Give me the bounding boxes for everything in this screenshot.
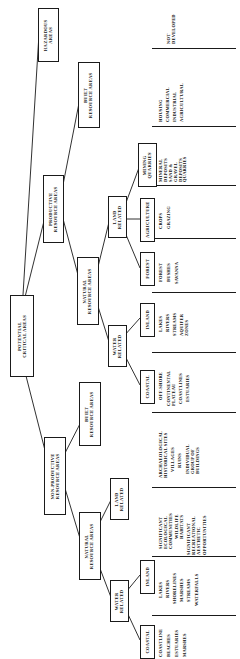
leaf-item: QUARRIES bbox=[182, 157, 187, 182]
node-label-line2: CRITICAL AREAS bbox=[22, 315, 27, 358]
leaf-item: SAVANNA bbox=[174, 262, 179, 284]
leaf-item: AGRICULTURAL bbox=[179, 83, 184, 122]
node-label-line1: FOREST bbox=[145, 259, 150, 279]
leaf-column: INDIVIDUAL GROUP OF BUILDINGS bbox=[185, 444, 201, 474]
leaf-column: MARSHES bbox=[179, 578, 184, 602]
leaf-item: MARSHES bbox=[182, 633, 187, 657]
leaf-item: BUILDINGS bbox=[195, 444, 200, 474]
leaf-column: AGRICULTURAL bbox=[179, 83, 184, 122]
leaf-column: RUINS bbox=[177, 453, 182, 468]
leaf-item: MARSHES bbox=[179, 578, 184, 602]
leaf-column: FOREST bbox=[158, 263, 163, 282]
node-label-line2: RESOURCE AREAS bbox=[54, 186, 59, 232]
leaf-column: STREAMS bbox=[186, 579, 191, 602]
node-label-line2: RELATED bbox=[120, 589, 125, 613]
leaf-column: RIVERS bbox=[165, 580, 170, 598]
node-natural-resource-areas-non-productive[interactable]: NATURAL RESOURCE AREAS bbox=[79, 512, 101, 580]
leaf-item: OPPORTUNITIES bbox=[202, 515, 207, 555]
leaf-item: COASTLINES bbox=[178, 373, 183, 404]
node-label-line1: PRODUCTIVE bbox=[48, 186, 53, 232]
leaf-item: PLATEAU bbox=[171, 371, 176, 406]
leaf-column: BUSHES bbox=[166, 263, 171, 282]
leaf-item: FOREST bbox=[158, 263, 163, 282]
leaf-column: WATERFALLS bbox=[194, 574, 199, 606]
node-potential-critical-areas[interactable]: POTENTIAL CRITICAL AREAS bbox=[10, 295, 34, 377]
leaf-column: WILDLIFE HABITATS bbox=[174, 514, 184, 539]
leaf-item: CROPS bbox=[158, 213, 163, 229]
leaf-column: SAVANNA bbox=[174, 262, 179, 284]
node-agriculture[interactable]: AGRICULTURE bbox=[140, 198, 155, 242]
leaf-column: OFF-SHORE bbox=[158, 372, 163, 400]
leaf-item: OFF-SHORE bbox=[158, 372, 163, 400]
node-label-line1: LAND bbox=[112, 205, 117, 229]
node-label-line1: COASTAL bbox=[145, 375, 150, 399]
node-inland-non-productive[interactable]: INLAND bbox=[140, 560, 155, 594]
leaf-separator bbox=[152, 292, 236, 293]
leaf-item: LAKES bbox=[158, 316, 163, 332]
node-natural-resource-areas-productive[interactable]: NATURAL RESOURCE AREAS bbox=[77, 257, 99, 325]
leaf-item: HOUSING bbox=[158, 99, 163, 122]
node-inland-productive[interactable]: INLAND bbox=[140, 303, 155, 337]
node-non-productive-resource-areas[interactable]: NON-PRODUCTIVE RESOURCE AREAS bbox=[44, 437, 66, 515]
node-built-resource-areas-productive[interactable]: BUILT RESOURCE AREAS bbox=[78, 62, 100, 128]
node-water-related-productive[interactable]: WATER RELATED bbox=[108, 325, 127, 367]
leaf-column: ESTUARIES bbox=[174, 630, 179, 657]
leaf-separator bbox=[152, 126, 236, 127]
leaf-column: ARCHAEOLOGICAL HISTORICAL SITES bbox=[158, 431, 168, 478]
node-land-related-non-productive[interactable]: LAND RELATED bbox=[110, 478, 129, 520]
leaf-separator bbox=[152, 185, 236, 186]
leaf-item: LAKES bbox=[158, 582, 163, 598]
node-label-line2: RELATED bbox=[118, 334, 123, 358]
node-label-line2: QUARRIES bbox=[148, 152, 153, 178]
leaf-separator bbox=[152, 412, 236, 413]
node-label-line1: COASTAL bbox=[145, 630, 150, 654]
leaf-item: DEVELOPED bbox=[171, 14, 176, 44]
leaf-column: SIGNIFICANT ECOLOGICAL COMMUNITIES bbox=[158, 513, 174, 549]
leaf-item: HABITATS bbox=[179, 514, 184, 539]
leaf-item: STREAMS bbox=[172, 313, 177, 336]
node-hazardous-areas[interactable]: HAZARDOUS AREAS bbox=[38, 8, 59, 62]
node-label-line1: LAND bbox=[114, 487, 119, 511]
leaf-column: SHORELINES bbox=[172, 573, 177, 604]
node-coastal-productive[interactable]: COASTAL bbox=[140, 370, 155, 404]
node-label-line1: INLAND bbox=[145, 567, 150, 587]
node-built-resource-areas-non-productive[interactable]: BUILT RESOURCE AREAS bbox=[79, 382, 101, 446]
node-label-line1: POTENTIAL bbox=[17, 315, 22, 358]
node-label-line2: RESOURCE AREAS bbox=[55, 453, 60, 499]
leaf-item: COASTLINE bbox=[158, 629, 163, 657]
leaf-item: RIVERS bbox=[165, 314, 170, 332]
node-label-line1: INLAND bbox=[145, 310, 150, 330]
node-label-line2: AREAS bbox=[49, 19, 54, 51]
leaf-column: VILLAGES bbox=[170, 447, 175, 472]
leaf-item: STREAMS bbox=[186, 579, 191, 602]
node-coastal-non-productive[interactable]: COASTAL bbox=[140, 625, 155, 659]
leaf-item: VILLAGES bbox=[170, 447, 175, 472]
leaf-column: SIGNIFICANT RECREATIONAL AESTHETIC OPPOR… bbox=[186, 515, 207, 555]
leaf-column: MARSHES bbox=[182, 633, 187, 657]
leaf-separator bbox=[152, 352, 236, 353]
node-productive-resource-areas[interactable]: PRODUCTIVE RESOURCE AREAS bbox=[43, 175, 64, 243]
node-mining-quarries[interactable]: MINING QUARRIES bbox=[138, 143, 157, 187]
leaf-item: INDUSTRIAL bbox=[172, 92, 177, 122]
leaf-item: HISTORICAL SITES bbox=[163, 431, 168, 478]
leaf-column: COASTLINE bbox=[158, 629, 163, 657]
leaf-item: BUSHES bbox=[166, 263, 171, 282]
node-forest[interactable]: FOREST bbox=[140, 252, 155, 286]
node-land-related-productive[interactable]: LAND RELATED bbox=[108, 196, 127, 238]
leaf-item: COMMUNITIES bbox=[168, 513, 173, 549]
leaf-item: RIVERS bbox=[165, 580, 170, 598]
leaf-item: RUINS bbox=[177, 453, 182, 468]
leaf-column: COMMERCIAL bbox=[165, 87, 170, 122]
node-label-line2: RELATED bbox=[120, 487, 125, 511]
leaf-item: ZONES bbox=[184, 314, 189, 336]
node-water-related-non-productive[interactable]: WATER RELATED bbox=[110, 580, 129, 622]
leaf-separator bbox=[152, 487, 236, 488]
node-label-line2: RESOURCE AREAS bbox=[90, 391, 95, 437]
node-label-line2: RELATED bbox=[118, 205, 123, 229]
leaf-column: STREAMS bbox=[172, 313, 177, 336]
node-label-line1: WATER bbox=[114, 589, 119, 613]
leaf-column: QUARRIES bbox=[182, 157, 187, 182]
leaf-column: CROPS bbox=[158, 213, 163, 229]
leaf-column: AQUIFER ZONES bbox=[179, 314, 189, 336]
